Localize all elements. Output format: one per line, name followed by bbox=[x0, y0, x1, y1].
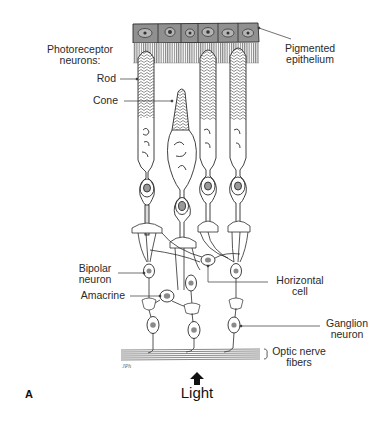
horizontal-cell bbox=[201, 255, 215, 266]
inner-synapses bbox=[142, 298, 243, 315]
cone-label: Cone bbox=[78, 95, 118, 106]
panel-label: A bbox=[25, 388, 33, 400]
bipolar-label-line2: neuron bbox=[75, 274, 115, 285]
fibers-brace bbox=[264, 349, 267, 359]
bipolar-neuron-label: Bipolar neuron bbox=[75, 263, 115, 285]
horizontal-cell-label: Horizontal cell bbox=[270, 275, 330, 297]
svg-text:JPh: JPh bbox=[122, 363, 131, 369]
rod-label: Rod bbox=[80, 73, 116, 84]
photoreceptors bbox=[138, 48, 246, 240]
pigmented-label-line2: epithelium bbox=[275, 54, 345, 65]
photoreceptor-label-line2: neurons: bbox=[40, 55, 120, 66]
ganglion-neuron-label: Ganglion neuron bbox=[322, 318, 372, 340]
amacrine-label: Amacrine bbox=[70, 290, 125, 301]
photoreceptor-neurons-label: Photoreceptor neurons: bbox=[40, 44, 120, 66]
optic-nerve-fibers-label: Optic nerve fibers bbox=[268, 346, 330, 368]
bipolar-neurons bbox=[144, 264, 242, 292]
optic-label-line2: fibers bbox=[268, 357, 330, 368]
horizontal-label-line2: cell bbox=[270, 286, 330, 297]
light-label: Light bbox=[175, 384, 219, 401]
retina-diagram: JPh Photoreceptor neurons: Rod Cone Pigm… bbox=[0, 0, 387, 421]
optic-nerve-fibers bbox=[121, 349, 260, 360]
ganglion-label-line2: neuron bbox=[322, 329, 372, 340]
pigmented-epithelium-label: Pigmented epithelium bbox=[275, 43, 345, 65]
